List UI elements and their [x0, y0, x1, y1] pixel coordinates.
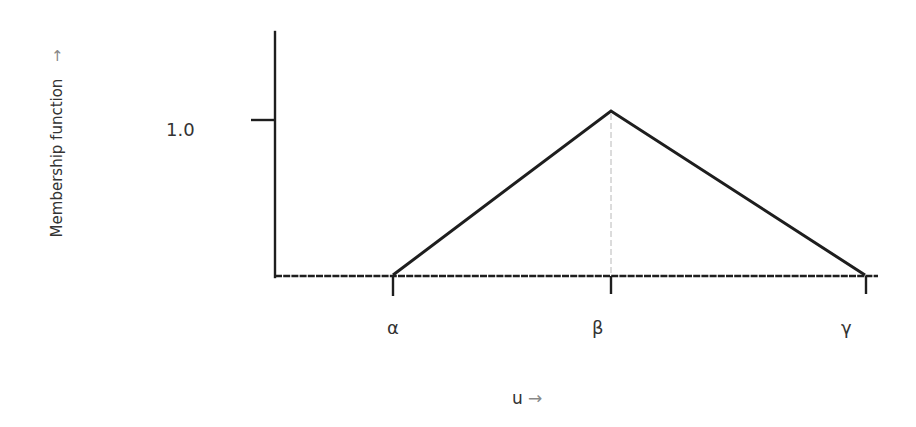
y-axis-arrow-icon: → — [48, 49, 66, 62]
x-axis-arrow-icon: → — [528, 388, 542, 408]
y-axis-label: Membership function — [48, 79, 66, 238]
x-axis-label: u — [512, 388, 523, 408]
y-axis-label-group: Membership function → — [48, 49, 66, 237]
x-tick-label-beta: β — [592, 317, 604, 338]
x-tick-label-gamma: γ — [841, 317, 852, 338]
membership-function-diagram: Membership function → 1.0 α β γ u → — [0, 0, 916, 427]
x-tick-label-alpha: α — [387, 317, 399, 338]
y-tick-label-1: 1.0 — [166, 119, 195, 140]
triangular-membership-curve — [393, 111, 865, 275]
